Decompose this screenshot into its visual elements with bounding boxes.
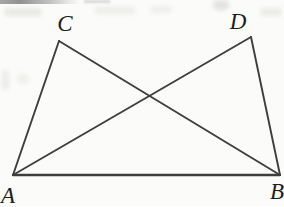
edge-AD	[13, 37, 251, 175]
edge-CB	[59, 41, 280, 175]
edge-DB	[251, 37, 280, 175]
vertex-label-b: B	[270, 180, 284, 203]
edge-AC	[13, 41, 59, 175]
vertex-label-d: D	[230, 10, 247, 33]
geometry-figure: ABCD	[0, 0, 284, 206]
vertex-label-c: C	[57, 12, 72, 35]
vertex-label-a: A	[1, 184, 15, 207]
